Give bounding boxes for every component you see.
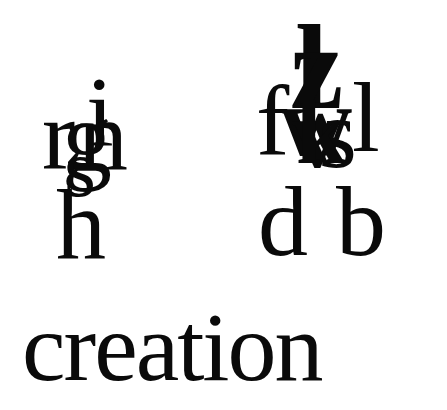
word-creation: creation	[22, 298, 322, 396]
glyph-d: d	[258, 172, 308, 272]
glyph-k: k	[296, 88, 346, 178]
glyph-b: b	[336, 172, 386, 272]
artwork-canvas: i r n g s h l z f w v s l k d b creation	[0, 0, 447, 410]
glyph-h: h	[56, 175, 106, 275]
glyph-l: l	[352, 68, 380, 168]
